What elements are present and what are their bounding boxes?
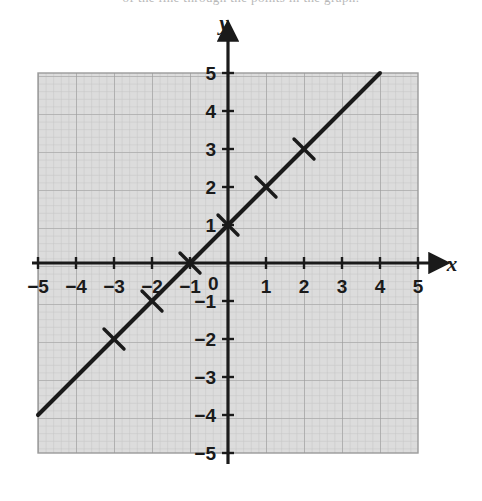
x-tick-label: 2 (299, 276, 310, 297)
x-tick-label: −4 (65, 276, 87, 297)
x-tick-label: 4 (375, 276, 386, 297)
y-tick-label: −3 (194, 367, 216, 388)
coordinate-plane-figure: −5 −4 −3 −2 −1 1 2 3 4 5 5 4 3 2 1 −1 −2… (0, 0, 482, 501)
y-tick-label: 1 (205, 215, 216, 236)
y-tick-label: −2 (194, 329, 216, 350)
x-tick-label: −5 (27, 276, 49, 297)
y-tick-label: 5 (205, 63, 216, 84)
y-tick-label: 2 (205, 177, 216, 198)
graph-svg: −5 −4 −3 −2 −1 1 2 3 4 5 5 4 3 2 1 −1 −2… (0, 0, 482, 501)
y-tick-label: 4 (205, 101, 216, 122)
y-tick-label: 3 (205, 139, 216, 160)
origin-label: 0 (208, 273, 219, 294)
x-tick-label: 1 (261, 276, 272, 297)
y-tick-label: −5 (194, 443, 216, 464)
y-tick-label: −4 (194, 405, 216, 426)
x-tick-label: −3 (103, 276, 125, 297)
x-tick-label: 3 (337, 276, 348, 297)
y-axis-label: y (216, 11, 229, 35)
x-axis-label: x (446, 252, 458, 276)
x-tick-label: 5 (413, 276, 424, 297)
y-tick-label: −1 (194, 291, 216, 312)
